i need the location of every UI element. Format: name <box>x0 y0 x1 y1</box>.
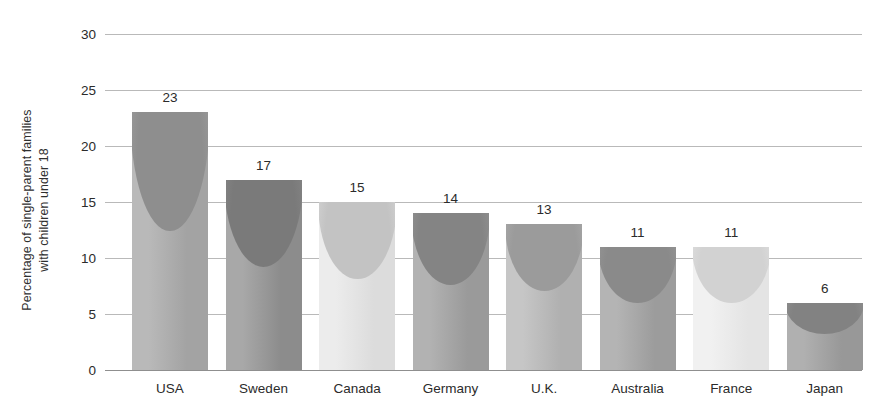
bar-group: 14Germany <box>413 15 489 370</box>
bar-group: 11Australia <box>600 15 676 370</box>
bar-group: 17Sweden <box>226 15 302 370</box>
bar-body <box>693 247 769 370</box>
bar-chart: Percentage of single-parent families wit… <box>0 0 891 419</box>
y-tick-label: 25 <box>81 83 96 98</box>
y-tick-label: 5 <box>88 307 96 322</box>
x-axis-label-usa: USA <box>118 381 222 396</box>
y-tick-label: 10 <box>81 251 96 266</box>
bar-value-label: 6 <box>787 281 863 296</box>
bar-body <box>226 180 302 370</box>
bar-value-label: 15 <box>319 180 395 195</box>
y-axis-title-line-1: Percentage of single-parent families <box>19 109 36 310</box>
bars: 23USA17Sweden15Canada14Germany13U.K.11Au… <box>105 20 867 375</box>
y-tick-label: 20 <box>81 139 96 154</box>
bar-value-label: 14 <box>413 191 489 206</box>
bar-body <box>132 112 208 370</box>
bar-value-label: 11 <box>693 225 769 240</box>
bar-group: 6Japan <box>787 15 863 370</box>
x-axis-label-canada: Canada <box>305 381 409 396</box>
plot-area: 051015202530 23USA17Sweden15Canada14Germ… <box>105 20 867 375</box>
bar-germany[interactable] <box>413 213 489 370</box>
bar-body <box>319 202 395 370</box>
bar-value-label: 13 <box>506 202 582 217</box>
bar-value-label: 23 <box>132 90 208 105</box>
bar-value-label: 17 <box>226 158 302 173</box>
bar-body <box>600 247 676 370</box>
bar-body <box>413 213 489 370</box>
x-axis-label-u-k: U.K. <box>492 381 596 396</box>
bar-usa[interactable] <box>132 112 208 370</box>
y-axis-title: Percentage of single-parent families wit… <box>0 0 72 419</box>
x-axis-label-australia: Australia <box>586 381 690 396</box>
bar-france[interactable] <box>693 247 769 370</box>
bar-canada[interactable] <box>319 202 395 370</box>
y-tick-label: 30 <box>81 27 96 42</box>
y-tick-label: 0 <box>88 363 96 378</box>
bar-group: 11France <box>693 15 769 370</box>
bar-sweden[interactable] <box>226 180 302 370</box>
y-axis-title-line-2: with children under 18 <box>36 109 53 310</box>
bar-japan[interactable] <box>787 303 863 370</box>
x-axis-label-germany: Germany <box>399 381 503 396</box>
bar-value-label: 11 <box>600 225 676 240</box>
bar-body <box>506 224 582 370</box>
bar-australia[interactable] <box>600 247 676 370</box>
x-axis-label-france: France <box>679 381 783 396</box>
y-tick-label: 15 <box>81 195 96 210</box>
bar-u-k[interactable] <box>506 224 582 370</box>
x-axis-label-japan: Japan <box>773 381 877 396</box>
x-axis-label-sweden: Sweden <box>212 381 316 396</box>
bar-group: 13U.K. <box>506 15 582 370</box>
bar-group: 15Canada <box>319 15 395 370</box>
bar-group: 23USA <box>132 15 208 370</box>
bar-body <box>787 303 863 370</box>
